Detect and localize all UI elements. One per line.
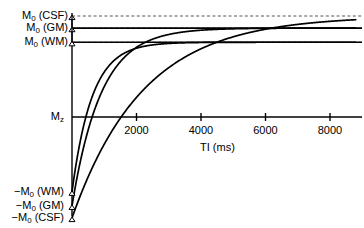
marker-neg-m0-gm: [69, 205, 75, 210]
y-label-neg-m0-csf: −M0 (CSF): [12, 212, 64, 224]
y-label-mz: Mz: [51, 111, 64, 123]
x-tick-label-6000: 6000: [244, 124, 288, 136]
y-label-neg-m0-wm: −M0 (WM): [14, 186, 64, 198]
y-label-m0-wm: M0 (WM): [24, 36, 68, 48]
marker-neg-m0-csf: [69, 217, 75, 222]
y-label-m0-gm: M0 (GM): [26, 22, 68, 34]
x-axis-title: TI (ms): [200, 142, 235, 153]
x-tick-label-2000: 2000: [115, 124, 159, 136]
curve-CSF: [72, 20, 356, 218]
x-tick-label-4000: 4000: [179, 124, 223, 136]
chart-root: M0 (CSF) M0 (GM) M0 (WM) Mz −M0 (WM) −M0…: [0, 0, 364, 228]
x-tick-label-8000: 8000: [308, 124, 352, 136]
